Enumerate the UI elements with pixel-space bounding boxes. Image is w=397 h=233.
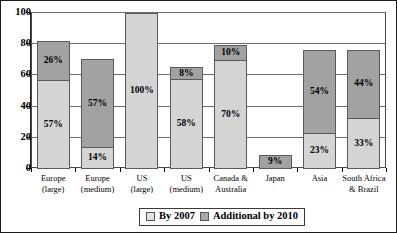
bar-value-label: 33% [354, 139, 373, 149]
category-label-line1: US [181, 173, 192, 183]
bar-stack[interactable]: 100% [125, 13, 158, 168]
bar-group[interactable]: 10%70% [214, 12, 247, 168]
bar-segment[interactable]: 14% [81, 147, 114, 169]
bar-group[interactable]: 44%33% [347, 12, 380, 168]
legend-item[interactable]: By 2007 [146, 211, 195, 222]
bar-value-label: 100% [130, 86, 154, 96]
bar-value-label: 54% [310, 87, 329, 97]
bar-group[interactable]: 8%58% [170, 12, 203, 168]
bar-stack[interactable]: 54%23% [303, 50, 336, 168]
bar-group[interactable]: 57%14% [81, 12, 114, 168]
x-tick-mark [120, 168, 121, 172]
bar-stack[interactable]: 26%57% [37, 41, 70, 168]
x-tick-mark [386, 168, 387, 172]
bar-value-label: 57% [44, 120, 63, 130]
bars-layer: 26%57%57%14%100%8%58%10%70%9%54%23%44%33… [31, 12, 386, 168]
bar-segment[interactable]: 100% [125, 13, 158, 169]
bar-segment[interactable]: 57% [37, 80, 70, 169]
bar-segment[interactable]: 57% [81, 59, 114, 148]
bar-segment[interactable]: 9% [259, 155, 292, 169]
legend-label: By 2007 [159, 211, 195, 222]
chart-legend: By 2007Additional by 2010 [139, 208, 305, 226]
bar-value-label: 26% [44, 56, 63, 66]
category-label-line1: Europe [41, 173, 66, 183]
bar-stack[interactable]: 9% [259, 155, 292, 168]
bar-value-label: 23% [310, 146, 329, 156]
bar-stack[interactable]: 10%70% [214, 45, 247, 168]
x-tick-mark [75, 168, 76, 172]
bar-group[interactable]: 100% [125, 12, 158, 168]
legend-swatch-icon [146, 212, 155, 221]
category-label-line1: US [137, 173, 148, 183]
category-label-line1: South Africa [342, 173, 385, 183]
bar-value-label: 70% [221, 110, 240, 120]
bar-stack[interactable]: 57%14% [81, 59, 114, 168]
y-axis: 020406080100 [1, 12, 31, 168]
x-tick-mark [342, 168, 343, 172]
x-tick-mark [253, 168, 254, 172]
category-label-line1: Japan [265, 173, 284, 183]
x-axis-category-label: South Africa& Brazil [338, 173, 390, 195]
legend-item[interactable]: Additional by 2010 [200, 211, 298, 222]
category-label-line1: Canada & [214, 173, 248, 183]
x-tick-mark [164, 168, 165, 172]
bar-segment[interactable]: 70% [214, 60, 247, 169]
bar-segment[interactable]: 26% [37, 41, 70, 82]
legend-swatch-icon [200, 212, 209, 221]
plot-area: 26%57%57%14%100%8%58%10%70%9%54%23%44%33… [31, 12, 386, 168]
stacked-bar-chart: 020406080100 26%57%57%14%100%8%58%10%70%… [0, 0, 397, 233]
bar-value-label: 14% [88, 153, 107, 163]
bar-segment[interactable]: 23% [303, 133, 336, 169]
bar-stack[interactable]: 8%58% [170, 67, 203, 168]
category-label-line2: & Brazil [338, 184, 390, 195]
bar-group[interactable]: 9% [259, 12, 292, 168]
bar-group[interactable]: 26%57% [37, 12, 70, 168]
bar-stack[interactable]: 44%33% [347, 50, 380, 168]
bar-value-label: 8% [179, 69, 193, 79]
bar-segment[interactable]: 10% [214, 45, 247, 61]
bar-value-label: 44% [354, 79, 373, 89]
x-axis-labels: Europe(large)Europe(medium)US(large)US(m… [31, 173, 386, 201]
bar-value-label: 10% [221, 48, 240, 58]
bar-segment[interactable]: 44% [347, 50, 380, 119]
bar-value-label: 57% [88, 99, 107, 109]
x-tick-mark [31, 168, 32, 172]
category-label-line1: Europe [85, 173, 110, 183]
bar-value-label: 9% [268, 157, 282, 167]
x-axis-ticks [31, 168, 386, 172]
bar-segment[interactable]: 33% [347, 118, 380, 169]
x-tick-mark [209, 168, 210, 172]
bar-group[interactable]: 54%23% [303, 12, 336, 168]
bar-segment[interactable]: 58% [170, 79, 203, 169]
x-tick-mark [297, 168, 298, 172]
category-label-line2: Australia [205, 184, 257, 195]
bar-value-label: 58% [177, 119, 196, 129]
legend-label: Additional by 2010 [213, 211, 298, 222]
category-label-line1: Asia [312, 173, 328, 183]
bar-segment[interactable]: 54% [303, 50, 336, 134]
